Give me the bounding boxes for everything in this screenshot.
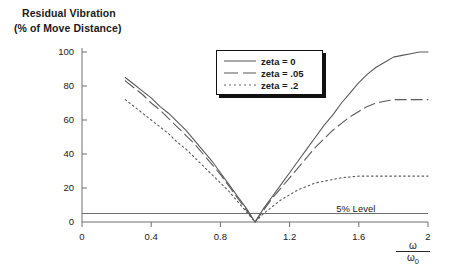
legend-item-zeta-005: zeta = .05: [217, 67, 322, 79]
y-tick-label: 60: [46, 115, 74, 125]
y-tick-label: 40: [46, 149, 74, 159]
curve-zeta-05: [125, 81, 428, 222]
x-axis-label-denominator: ω0: [396, 252, 430, 267]
legend-line-sample-solid: [223, 56, 257, 66]
legend-label-zeta-0: zeta = 0: [261, 56, 296, 67]
x-tick-label: 1.6: [344, 232, 374, 242]
x-axis-label-denominator-base: ω: [407, 252, 415, 263]
legend-line-sample-dashed: [223, 68, 257, 78]
x-tick-label: 0.4: [136, 232, 166, 242]
legend-item-zeta-0: zeta = 0: [217, 55, 322, 67]
legend-label-zeta-02: zeta = .2: [261, 80, 298, 91]
chart-figure: Residual Vibration (% of Move Distance) …: [0, 0, 460, 276]
y-tick-label: 80: [46, 81, 74, 91]
chart-legend: zeta = 0 zeta = .05 zeta = .2: [216, 50, 323, 95]
legend-item-zeta-02: zeta = .2: [217, 79, 322, 91]
y-tick-label: 100: [46, 47, 74, 57]
x-axis-label-numerator: ω: [396, 240, 430, 252]
y-tick-label: 20: [46, 183, 74, 193]
x-tick-label: 1.2: [275, 232, 305, 242]
legend-label-zeta-005: zeta = .05: [261, 68, 304, 79]
x-tick-label: 0: [67, 232, 97, 242]
x-axis-label-denominator-subscript: 0: [415, 257, 419, 266]
legend-line-sample-dotted: [223, 80, 257, 90]
y-tick-label: 0: [46, 217, 74, 227]
curve-zeta-2: [125, 100, 428, 222]
x-tick-label: 0.8: [205, 232, 235, 242]
x-axis-label: ω ω0: [396, 240, 430, 267]
five-percent-level-annotation: 5% Level: [336, 203, 375, 214]
